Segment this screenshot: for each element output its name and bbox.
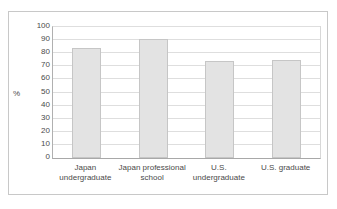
x-axis-category-label: U.S. graduate: [243, 163, 328, 173]
gridline: [53, 26, 320, 27]
bar: [139, 39, 168, 158]
plot-area: [52, 26, 321, 159]
y-axis-tick-label: 100: [24, 22, 50, 30]
chart-frame: % 1009080706050403020100 Japan undergrad…: [8, 11, 328, 195]
y-axis-tick-label: 40: [24, 101, 50, 109]
y-axis-title: %: [13, 90, 20, 98]
y-axis-tick-label: 50: [24, 88, 50, 96]
y-axis-tick-label: 80: [24, 48, 50, 56]
y-axis-tick-label: 30: [24, 114, 50, 122]
gridline: [53, 39, 320, 40]
y-axis-tick-label: 70: [24, 61, 50, 69]
y-axis-tick-label: 0: [24, 153, 50, 161]
bar: [72, 48, 101, 158]
y-axis-tick-label: 90: [24, 35, 50, 43]
bar: [205, 61, 234, 158]
bar: [272, 60, 301, 158]
y-axis-tick-label: 60: [24, 74, 50, 82]
y-axis-tick-label: 20: [24, 127, 50, 135]
y-axis-tick-label: 10: [24, 140, 50, 148]
y-axis-tick-labels: 1009080706050403020100: [22, 26, 50, 159]
